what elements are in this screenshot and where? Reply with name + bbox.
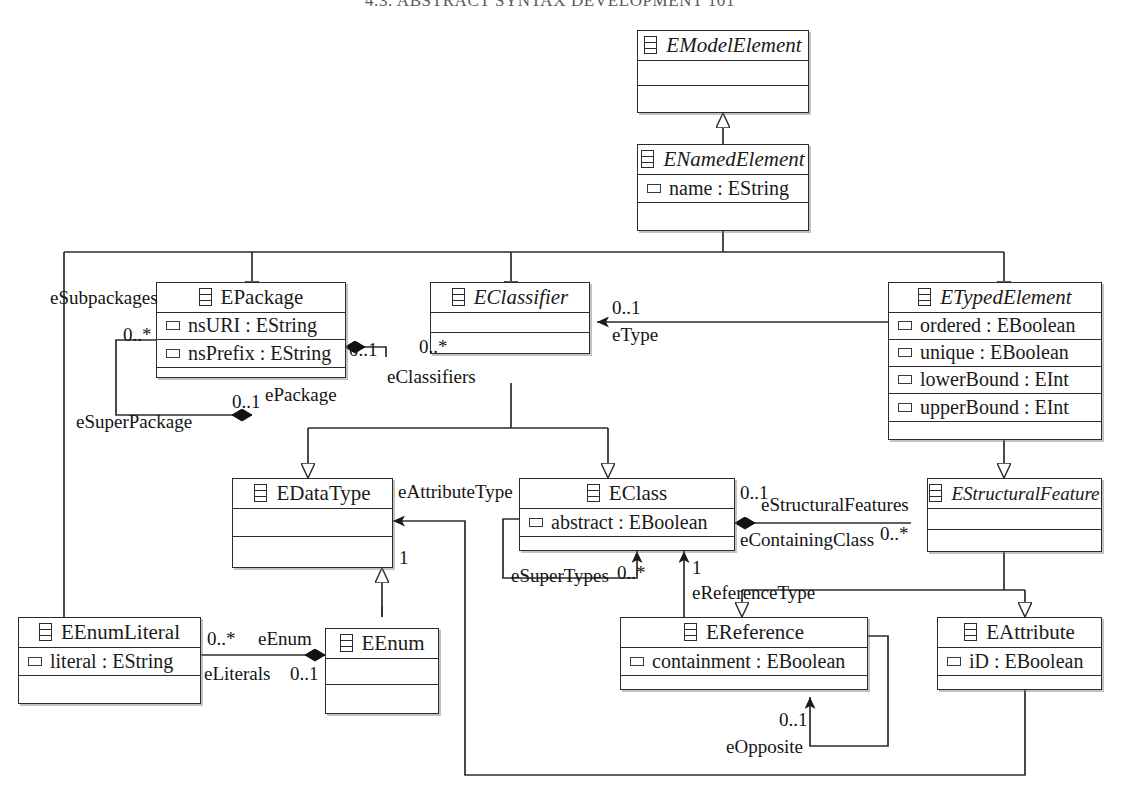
class-name: EClass: [609, 483, 667, 504]
attribute-compartment: literal : EString: [19, 648, 200, 676]
edge-mult-econtainingclass: 0..1: [740, 483, 769, 502]
operation-compartment: [621, 676, 867, 690]
attribute-row: lowerBound : EInt: [889, 367, 1101, 394]
edge-label-eattributetype: eAttributeType: [398, 482, 513, 501]
class-header: EEnum: [326, 629, 438, 659]
class-box-eenum[interactable]: EEnum: [325, 628, 439, 714]
operation-compartment: [928, 530, 1101, 551]
attribute-text: containment : EBoolean: [652, 650, 845, 673]
edge-label-eclassifiers: eClassifiers: [387, 367, 476, 386]
operation-compartment: [19, 676, 200, 704]
class-header: EReference: [621, 618, 867, 648]
class-name: EModelElement: [666, 35, 801, 56]
operation-compartment: [938, 676, 1101, 690]
class-box-edatatype[interactable]: EDataType: [232, 478, 393, 568]
class-box-eattribute[interactable]: EAttribute iD : EBoolean: [937, 617, 1102, 690]
class-header: EStructuralFeature: [928, 479, 1101, 509]
edge-mult-eclassifiers: 0..*: [419, 337, 448, 356]
attribute-row: nsPrefix : EString: [157, 340, 345, 367]
class-name: EStructuralFeature: [951, 484, 1099, 503]
attribute-icon: [898, 321, 912, 330]
attribute-text: name : EString: [669, 177, 789, 200]
class-header: ENamedElement: [638, 145, 808, 175]
attribute-text: lowerBound : EInt: [920, 368, 1069, 391]
attribute-row: iD : EBoolean: [938, 648, 1101, 675]
attribute-icon: [529, 518, 543, 527]
eclass-icon: [644, 36, 657, 54]
class-box-emodelelement[interactable]: EModelElement: [637, 30, 809, 113]
edge-label-esuperpackage: eSuperPackage: [76, 412, 192, 431]
operation-compartment: [233, 537, 392, 567]
class-box-eenumliteral[interactable]: EEnumLiteral literal : EString: [18, 617, 201, 704]
attribute-icon: [630, 657, 644, 666]
uml-diagram-page: 4.3. ABSTRACT SYNTAX DEVELOPMENT 101: [0, 0, 1142, 807]
class-box-etypedelement[interactable]: ETypedElement ordered : EBoolean unique …: [888, 282, 1102, 440]
class-box-eclassifier[interactable]: EClassifier: [430, 282, 590, 354]
eclass-icon: [964, 623, 977, 641]
class-name: ENamedElement: [663, 149, 804, 170]
attribute-compartment: ordered : EBoolean unique : EBoolean low…: [889, 313, 1101, 422]
attribute-compartment: [233, 509, 392, 537]
eclass-icon: [641, 150, 654, 168]
attribute-text: abstract : EBoolean: [551, 511, 708, 534]
edge-label-eliterals: eLiterals: [204, 664, 270, 683]
attribute-icon: [898, 348, 912, 357]
attribute-icon: [898, 403, 912, 412]
class-box-eclass[interactable]: EClass abstract : EBoolean: [519, 478, 735, 551]
operation-compartment: [431, 333, 589, 353]
class-header: EClass: [520, 479, 734, 509]
class-name: EEnum: [362, 633, 425, 654]
eclass-icon: [684, 623, 697, 641]
attribute-row: unique : EBoolean: [889, 340, 1101, 367]
eclass-icon: [199, 288, 212, 306]
operation-compartment: [326, 685, 438, 713]
attribute-compartment: [431, 313, 589, 333]
class-box-epackage[interactable]: EPackage nsURI : EString nsPrefix : EStr…: [156, 282, 346, 378]
edge-label-eenum: eEnum: [258, 629, 312, 648]
edge-mult-eenum: 0..1: [290, 664, 319, 683]
attribute-row: name : EString: [638, 175, 808, 202]
attribute-compartment: iD : EBoolean: [938, 648, 1101, 676]
eclass-icon: [452, 288, 465, 306]
attribute-text: ordered : EBoolean: [920, 314, 1076, 337]
attribute-icon: [28, 657, 42, 666]
attribute-text: upperBound : EInt: [920, 396, 1069, 419]
edge-mult-ereferencetype: 1: [692, 558, 702, 577]
edge-label-eopposite: eOpposite: [726, 737, 803, 756]
eclass-icon: [254, 484, 267, 502]
edge-mult-eattributetype: 1: [399, 548, 409, 567]
attribute-compartment: [638, 61, 808, 86]
attribute-compartment: containment : EBoolean: [621, 648, 867, 676]
class-header: EPackage: [157, 283, 345, 313]
operation-compartment: [889, 422, 1101, 441]
edge-mult-etype: 0..1: [612, 298, 641, 317]
attribute-icon: [647, 184, 661, 193]
attribute-row: nsURI : EString: [157, 313, 345, 340]
class-name: EEnumLiteral: [61, 622, 180, 643]
edge-label-epackage: ePackage: [265, 385, 337, 404]
attribute-text: unique : EBoolean: [920, 341, 1069, 364]
attribute-text: nsPrefix : EString: [188, 342, 331, 365]
attribute-icon: [166, 349, 180, 358]
class-box-ereference[interactable]: EReference containment : EBoolean: [620, 617, 868, 690]
eclass-icon: [918, 288, 931, 306]
eclass-icon: [340, 634, 353, 652]
attribute-compartment: abstract : EBoolean: [520, 509, 734, 537]
attribute-text: literal : EString: [50, 650, 173, 673]
class-header: EClassifier: [431, 283, 589, 313]
class-name: EAttribute: [986, 622, 1075, 643]
attribute-row: abstract : EBoolean: [520, 509, 734, 536]
class-header: EDataType: [233, 479, 392, 509]
attribute-icon: [166, 321, 180, 330]
class-name: EClassifier: [474, 287, 569, 308]
attribute-compartment: name : EString: [638, 175, 808, 203]
edge-mult-estructuralfeatures: 0..*: [880, 524, 909, 543]
operation-compartment: [638, 203, 808, 231]
class-name: EReference: [706, 622, 804, 643]
class-box-enamedelement[interactable]: ENamedElement name : EString: [637, 144, 809, 231]
attribute-text: nsURI : EString: [188, 314, 317, 337]
class-box-estructuralfeature[interactable]: EStructuralFeature: [927, 478, 1102, 552]
edge-label-ereferencetype: eReferenceType: [692, 583, 815, 602]
class-name: EDataType: [276, 483, 370, 504]
class-name: ETypedElement: [940, 287, 1071, 308]
